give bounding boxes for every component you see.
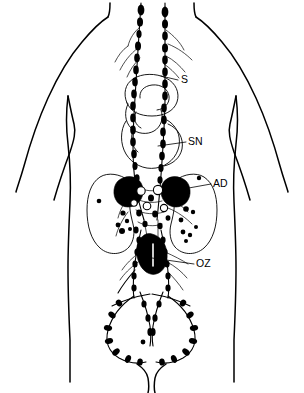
lymph-node	[166, 215, 171, 221]
label-AD: AD	[213, 177, 228, 189]
lymph-node	[160, 236, 165, 243]
lymph-node	[136, 210, 142, 217]
label-SN: SN	[188, 135, 203, 147]
lymph-node	[161, 116, 167, 125]
torso-outline-group	[16, 3, 288, 382]
lymph-node	[162, 43, 168, 52]
lymph-node	[160, 140, 166, 149]
lymph-node	[120, 210, 125, 215]
lymph-node	[130, 126, 136, 135]
lymph-node	[145, 314, 150, 322]
lymph-node	[184, 239, 188, 243]
lymph-node	[125, 219, 129, 223]
lymph-node	[134, 54, 140, 63]
right-neck-outline	[194, 3, 196, 17]
lymph-node	[130, 102, 136, 111]
lymph-node	[159, 152, 165, 160]
lymph-node	[119, 228, 125, 234]
lymph-node	[164, 260, 169, 267]
lymph-node-open	[153, 185, 162, 194]
lymph-node	[104, 337, 114, 345]
lymph-node	[133, 227, 138, 234]
lymph-node	[165, 285, 170, 292]
lymph-node	[134, 174, 139, 182]
lymph-node	[148, 194, 154, 201]
lymph-node	[188, 233, 192, 237]
left-neck-outline	[108, 3, 110, 17]
lymph-node	[128, 227, 132, 231]
lymph-node	[162, 80, 168, 89]
lymph-node	[160, 128, 166, 137]
lymph-node	[162, 92, 168, 101]
lymph-node-open	[143, 202, 151, 210]
lymph-node	[132, 162, 137, 170]
lymph-node	[189, 324, 198, 331]
label-OZ: OZ	[196, 257, 211, 269]
anatomy-illustration: S SN AD OZ	[0, 0, 304, 393]
right-torso-outline	[234, 96, 238, 382]
lymph-node	[152, 314, 157, 322]
lymph-node	[194, 225, 198, 229]
lymph-node	[137, 17, 143, 26]
lymph-node	[131, 150, 137, 158]
label-S: S	[181, 73, 188, 85]
right-arm-inner-outline	[229, 96, 250, 200]
lymph-node	[150, 328, 155, 336]
lymph-node	[103, 324, 112, 331]
lymph-node	[162, 19, 168, 28]
lymph-node	[132, 78, 138, 87]
lymph-node	[138, 5, 145, 16]
lymph-node	[130, 114, 136, 123]
perineum-outline	[137, 364, 149, 393]
lymph-node	[152, 211, 158, 218]
lymph-node	[141, 340, 146, 345]
lymph-node	[131, 285, 136, 292]
lymph-node	[116, 223, 121, 228]
lymph-node	[162, 56, 168, 65]
lymph-node	[157, 223, 162, 229]
lymph-node	[179, 218, 184, 223]
lymph-node	[197, 176, 201, 180]
lymph-node	[162, 32, 168, 41]
lymph-node	[136, 236, 141, 243]
right-adrenal-mass	[161, 177, 190, 207]
lymph-node-open	[137, 187, 145, 195]
left-arm-outer-outline	[16, 17, 108, 192]
lymph-node	[158, 164, 163, 172]
lymph-node-open	[131, 200, 137, 206]
lymph-node	[131, 90, 137, 99]
lymph-node	[136, 30, 141, 38]
lymph-vessel-upper-right-2	[168, 44, 192, 60]
lymph-node	[191, 210, 195, 214]
lymph-node	[156, 300, 161, 307]
lymph-node	[162, 7, 169, 18]
lymph-node	[183, 206, 189, 212]
lymphatic-diagram-figure: S SN AD OZ	[0, 0, 304, 393]
lymph-node	[97, 199, 102, 204]
right-arm-outer-outline	[196, 17, 288, 192]
lymph-node-open	[160, 204, 167, 211]
lymph-vessel-upper-right-3	[166, 56, 185, 72]
lymph-node	[135, 41, 141, 50]
left-arm-inner-outline	[54, 96, 75, 200]
lymph-node	[161, 104, 167, 113]
lymph-node	[181, 230, 186, 235]
lymph-node	[157, 176, 162, 184]
perineum-outline-right	[154, 364, 166, 393]
lymph-node	[188, 337, 198, 345]
upper-lymph-vessels-group	[115, 27, 192, 78]
lymph-node	[141, 300, 146, 307]
left-torso-outline	[67, 96, 71, 382]
lymph-node	[133, 66, 139, 75]
lymph-node	[130, 138, 136, 147]
lymph-node	[162, 68, 168, 77]
lymph-node	[142, 221, 147, 227]
